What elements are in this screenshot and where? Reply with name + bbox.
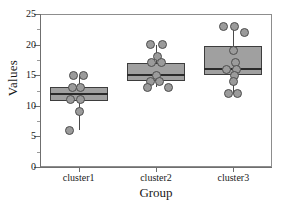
data-point: [229, 77, 238, 86]
data-point: [143, 83, 152, 92]
data-point: [240, 28, 249, 37]
y-minor-tick: [37, 60, 40, 61]
data-point: [164, 83, 173, 92]
y-minor-tick: [37, 152, 40, 153]
data-point: [155, 77, 164, 86]
y-tick-label: 25: [0, 9, 36, 19]
y-tick-label: 20: [0, 40, 36, 50]
data-point: [147, 58, 156, 67]
boxplot-figure: Values Group 0510152025 cluster1cluster2…: [0, 0, 288, 206]
data-point: [229, 46, 238, 55]
y-tick-label: 0: [0, 162, 36, 172]
data-point: [219, 22, 228, 31]
x-tick-label-cluster1: cluster1: [39, 172, 119, 183]
y-tick-label: 5: [0, 131, 36, 141]
x-tick-label-cluster2: cluster2: [116, 172, 196, 183]
y-minor-tick: [37, 29, 40, 30]
data-point: [233, 89, 242, 98]
data-point: [224, 89, 233, 98]
data-point: [65, 126, 74, 135]
data-point: [69, 71, 78, 80]
y-minor-tick: [37, 121, 40, 122]
y-minor-tick: [37, 91, 40, 92]
y-tick-label: 10: [0, 101, 36, 111]
data-point: [158, 40, 167, 49]
y-tick-label: 15: [0, 70, 36, 80]
data-point: [157, 58, 166, 67]
y-axis-line: [40, 14, 41, 167]
data-point: [230, 22, 239, 31]
data-point: [146, 40, 155, 49]
x-axis-title: Group: [40, 185, 272, 201]
data-point: [222, 65, 231, 74]
data-point: [79, 71, 88, 80]
x-tick-label-cluster3: cluster3: [193, 172, 273, 183]
